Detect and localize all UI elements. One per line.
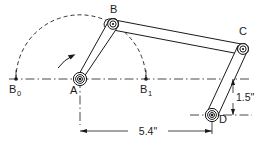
pin-joint-c-icon [240,46,246,52]
label-d: D [219,113,227,125]
label-b0: B [9,83,16,95]
label-b: B [110,3,117,15]
rotation-arrow-ccw-icon [58,54,76,68]
position-dot-b0 [14,77,18,81]
linkage-diagram: 1.5" 5.4" B 0 A B B 1 C D [0,0,261,144]
output-link-cd-body [207,46,247,118]
label-a: A [70,84,78,96]
dimension-vertical-1p5: 1.5" [231,79,255,115]
linkage-drawing-canvas: 1.5" 5.4" B 0 A B B 1 C D [0,0,261,144]
dimension-horizontal-label: 5.4" [139,125,158,137]
label-b0-subscript: 0 [17,89,21,98]
coupler-link-bc [104,18,248,54]
coupler-link-bc-body [104,19,244,54]
ground-pivot-d-icon [205,108,218,121]
dimension-horizontal-5p4: 5.4" [80,125,212,137]
pin-joint-b-icon [110,21,116,27]
dimension-vertical-label: 1.5" [236,91,255,103]
label-b1-subscript: 1 [148,89,152,98]
label-c: C [239,25,247,37]
position-dot-b1 [144,77,148,81]
label-b1: B [140,83,147,95]
